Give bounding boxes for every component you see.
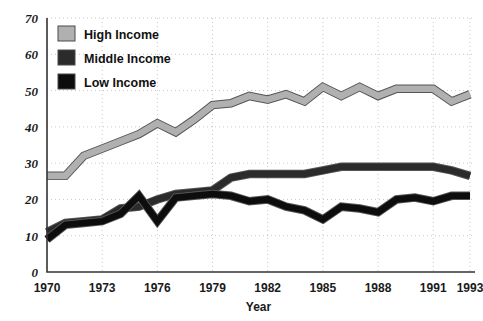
- series-line-low-income: [47, 194, 470, 239]
- y-tick-label: 40: [24, 120, 39, 135]
- x-tick-label: 1991: [420, 281, 447, 295]
- x-axis-title: Year: [246, 300, 272, 314]
- y-tick-label: 50: [25, 84, 39, 99]
- x-tick-label: 1979: [199, 281, 226, 295]
- line-chart: 7060504030201001970197319761979198219851…: [0, 0, 483, 321]
- x-axis-ticks: 197019731976197919821985198819911993: [34, 281, 483, 295]
- y-tick-label: 0: [32, 265, 39, 280]
- series-group: [47, 87, 470, 239]
- legend-swatch-high-income: [58, 26, 75, 41]
- series-line-high-income: [47, 87, 470, 176]
- chart-container: 7060504030201001970197319761979198219851…: [0, 0, 483, 321]
- y-tick-label: 60: [25, 47, 39, 62]
- legend-swatch-middle-income: [58, 50, 75, 65]
- x-tick-label: 1985: [310, 281, 337, 295]
- legend-label-high-income: High Income: [84, 28, 159, 42]
- x-tick-label: 1982: [254, 281, 281, 295]
- x-tick-label: 1988: [365, 281, 392, 295]
- x-tick-label: 1993: [457, 281, 483, 295]
- legend-label-middle-income: Middle Income: [84, 52, 171, 66]
- legend-swatch-low-income: [58, 74, 75, 89]
- chart-legend: High IncomeMiddle IncomeLow Income: [58, 26, 171, 90]
- x-tick-label: 1973: [89, 281, 116, 295]
- legend-label-low-income: Low Income: [84, 76, 156, 90]
- y-tick-label: 20: [24, 192, 39, 207]
- x-tick-label: 1970: [34, 281, 61, 295]
- y-axis-ticks: 706050403020100: [24, 11, 39, 280]
- y-tick-label: 30: [24, 156, 39, 171]
- y-tick-label: 70: [25, 11, 39, 26]
- x-tick-label: 1976: [144, 281, 171, 295]
- y-tick-label: 10: [25, 229, 39, 244]
